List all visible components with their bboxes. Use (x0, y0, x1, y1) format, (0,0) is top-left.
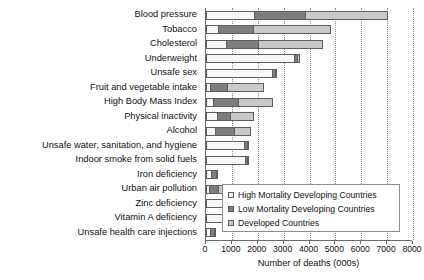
bar-segment (305, 11, 388, 20)
bar-segment (213, 98, 239, 107)
x-axis-tick-label: 5000 (325, 245, 344, 254)
category-label: Unsafe water, sanitation, and hygiene (42, 141, 197, 151)
bar-segment (230, 112, 255, 121)
legend-label: High Mortality Developing Countries (238, 191, 377, 200)
x-axis: 010002000300040005000600070008000 (205, 240, 412, 241)
bar-row (206, 98, 273, 107)
bar-row (206, 228, 216, 237)
x-axis-tick-label: 8000 (402, 245, 421, 254)
bar-segment (206, 141, 245, 150)
x-axis-tick-label: 0 (203, 245, 208, 254)
category-label: Urban air pollution (122, 184, 197, 194)
category-label: Indoor smoke from solid fuels (76, 155, 197, 165)
category-label: Underweight (145, 54, 197, 64)
bar-row (206, 54, 300, 63)
category-label: High Body Mass Index (104, 97, 197, 107)
x-axis-tick-label: 6000 (351, 245, 370, 254)
category-label: Zinc deficiency (136, 199, 198, 209)
bar-row (206, 69, 277, 78)
bar-segment (218, 25, 254, 34)
gridline (413, 8, 414, 240)
bar-row (206, 141, 249, 150)
bar-segment (258, 40, 323, 49)
bar-segment (234, 127, 251, 136)
bar-segment (254, 11, 306, 20)
bar-segment (297, 54, 300, 63)
chart-legend: High Mortality Developing Countries Low … (222, 184, 400, 232)
bar-segment (206, 40, 227, 49)
bar-row (206, 25, 331, 34)
legend-item: High Mortality Developing Countries (228, 188, 394, 202)
category-label: Blood pressure (134, 10, 197, 20)
bar-segment (206, 11, 255, 20)
legend-item: Low Mortality Developing Countries (228, 202, 394, 216)
bar-segment (206, 54, 295, 63)
bar-segment (216, 170, 219, 179)
x-axis-tick-label: 7000 (377, 245, 396, 254)
x-axis-tick-label: 3000 (273, 245, 292, 254)
x-axis-tick-label: 2000 (247, 245, 266, 254)
x-axis-tick-label: 1000 (221, 245, 240, 254)
bar-segment (210, 83, 228, 92)
bar-row (206, 170, 218, 179)
bar-segment (247, 141, 249, 150)
legend-item: Developed Countries (228, 216, 394, 230)
bar-segment (227, 83, 263, 92)
category-label: Unsafe sex (150, 68, 197, 78)
bar-segment (253, 25, 331, 34)
bar-segment (215, 127, 234, 136)
bar-segment (275, 69, 277, 78)
x-axis-tick-label: 4000 (299, 245, 318, 254)
category-label: Cholesterol (150, 39, 197, 49)
bar-segment (247, 156, 249, 165)
category-label: Iron deficiency (137, 170, 197, 180)
bar-row (206, 40, 323, 49)
category-label: Unsafe health care injections (78, 228, 197, 238)
bar-row (206, 112, 254, 121)
bar-segment (226, 40, 260, 49)
category-label: Alcohol (167, 126, 198, 136)
bar-segment (214, 228, 216, 237)
legend-label: Developed Countries (238, 219, 319, 228)
bar-segment (206, 69, 273, 78)
legend-label: Low Mortality Developing Countries (238, 205, 375, 214)
category-label: Vitamin A deficiency (114, 213, 197, 223)
bar-row (206, 127, 251, 136)
bar-chart: Blood pressureTobaccoCholesterolUnderwei… (0, 0, 424, 280)
bar-segment (217, 112, 231, 121)
category-axis-labels: Blood pressureTobaccoCholesterolUnderwei… (0, 0, 201, 232)
x-axis-title: Number of deaths (000s) (205, 258, 412, 268)
bar-row (206, 83, 264, 92)
category-label: Fruit and vegetable intake (90, 83, 197, 93)
medium-gray-swatch (228, 220, 234, 226)
dark-gray-swatch (228, 206, 234, 212)
bar-segment (238, 98, 273, 107)
bar-segment (206, 156, 246, 165)
bar-row (206, 11, 388, 20)
bar-row (206, 156, 249, 165)
category-label: Tobacco (162, 25, 197, 35)
light-gray-swatch (228, 192, 234, 198)
category-label: Physical inactivity (124, 112, 197, 122)
